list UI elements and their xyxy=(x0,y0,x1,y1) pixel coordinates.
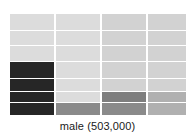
mosaic-cell[interactable] xyxy=(56,103,100,115)
mosaic-cell[interactable] xyxy=(56,14,100,30)
mosaic-cell[interactable] xyxy=(148,31,186,45)
mosaic-cell[interactable] xyxy=(148,79,186,91)
mosaic-cell[interactable] xyxy=(102,14,146,30)
mosaic-cell[interactable] xyxy=(102,92,146,102)
mosaic-cell[interactable] xyxy=(56,62,100,78)
mosaic-cell[interactable] xyxy=(56,31,100,45)
mosaic-cell[interactable] xyxy=(148,46,186,61)
mosaic-cell[interactable] xyxy=(10,62,54,78)
x-axis-label: male (503,000) xyxy=(0,120,195,132)
mosaic-cell[interactable] xyxy=(148,103,186,115)
plot-area xyxy=(10,14,186,115)
mosaic-cell[interactable] xyxy=(148,92,186,102)
mosaic-column xyxy=(102,14,146,115)
mosaic-cell[interactable] xyxy=(56,46,100,61)
mosaic-cell[interactable] xyxy=(10,92,54,102)
mosaic-cell[interactable] xyxy=(10,14,54,30)
mosaic-cell[interactable] xyxy=(102,31,146,45)
mosaic-cell[interactable] xyxy=(102,103,146,115)
mosaic-cell[interactable] xyxy=(10,31,54,45)
mosaic-cell[interactable] xyxy=(102,62,146,78)
mosaic-cell[interactable] xyxy=(10,46,54,61)
mosaic-cell[interactable] xyxy=(10,103,54,115)
mosaic-column xyxy=(10,14,54,115)
mosaic-cell[interactable] xyxy=(56,92,100,102)
mosaic-cell[interactable] xyxy=(56,79,100,91)
mosaic-cell[interactable] xyxy=(10,79,54,91)
mosaic-column xyxy=(148,14,186,115)
mosaic-cell[interactable] xyxy=(148,62,186,78)
mosaic-column xyxy=(56,14,100,115)
mosaic-cell[interactable] xyxy=(102,79,146,91)
mosaic-chart-figure: male (503,000) xyxy=(0,0,195,139)
mosaic-cell[interactable] xyxy=(102,46,146,61)
mosaic-cell[interactable] xyxy=(148,14,186,30)
